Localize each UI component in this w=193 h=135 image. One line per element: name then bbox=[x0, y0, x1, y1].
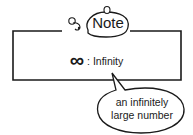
definition-separator: : bbox=[87, 55, 90, 67]
definition-row: ∞:Infinity bbox=[0, 52, 193, 69]
callout-text: an infinitely large number bbox=[100, 96, 184, 122]
definition-term: Infinity bbox=[93, 55, 123, 67]
bubble-loop bbox=[104, 7, 110, 14]
infinity-symbol: ∞ bbox=[70, 49, 84, 71]
callout-line-2: large number bbox=[100, 109, 184, 122]
callout-line-1: an infinitely bbox=[100, 96, 184, 109]
paperclip-icon bbox=[69, 18, 80, 30]
note-title: Note bbox=[88, 14, 128, 32]
